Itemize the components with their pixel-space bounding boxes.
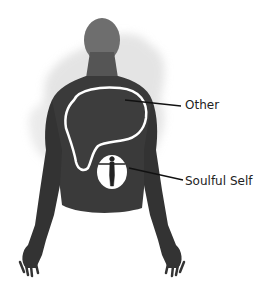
soulful-self-region bbox=[97, 155, 127, 189]
label-soulful-self: Soulful Self bbox=[185, 175, 252, 187]
label-other: Other bbox=[185, 99, 219, 111]
body-illustration bbox=[0, 0, 268, 291]
diagram-canvas: Other Soulful Self bbox=[0, 0, 268, 291]
